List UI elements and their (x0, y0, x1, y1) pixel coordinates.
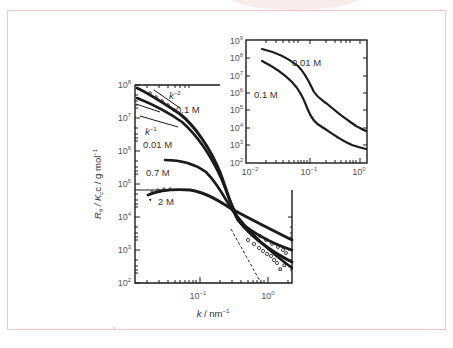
series-0.7M (165, 160, 292, 268)
svg-text:10−1: 10−1 (190, 290, 208, 301)
svg-text:105: 105 (118, 178, 132, 189)
svg-text:104: 104 (230, 122, 244, 133)
svg-text:0.7 M: 0.7 M (146, 167, 170, 178)
main-x-axis-title: k / nm−1 (197, 308, 230, 319)
main-y-axis-title: Rθ / Kcc / g mol−1 (92, 148, 104, 219)
svg-text:k−1: k−1 (145, 126, 157, 137)
svg-text:10−1: 10−1 (301, 166, 319, 177)
svg-text:106: 106 (230, 87, 244, 98)
svg-text:109: 109 (230, 35, 244, 46)
figure-canvas: 108 107 106 105 104 103 102 10−1 100 k /… (0, 0, 453, 348)
inset-y-tick-labels: 109 108 107 106 105 104 103 102 (230, 35, 244, 168)
svg-text:106: 106 (118, 145, 132, 156)
svg-text:108: 108 (230, 52, 244, 63)
svg-text:0.1 M: 0.1 M (176, 104, 200, 115)
svg-text:0.01 M: 0.01 M (143, 139, 172, 150)
svg-text:0.1 M: 0.1 M (254, 89, 278, 100)
inset-plot: 109 108 107 106 105 104 103 102 10−2 10−… (230, 35, 367, 177)
svg-text:0.01 M: 0.01 M (292, 57, 321, 68)
svg-text:10−2: 10−2 (242, 166, 260, 177)
svg-text:103: 103 (118, 244, 132, 255)
svg-text:k−2: k−2 (169, 90, 181, 101)
svg-text:2 M: 2 M (158, 196, 174, 207)
inset-x-tick-labels: 10−2 10−1 100 (242, 166, 367, 177)
svg-text:104: 104 (118, 211, 132, 222)
main-y-tick-labels: 108 107 106 105 104 103 102 (118, 79, 132, 288)
svg-text:107: 107 (230, 70, 244, 81)
svg-text:107: 107 (118, 112, 132, 123)
svg-text:108: 108 (118, 79, 132, 90)
svg-text:100: 100 (352, 166, 366, 177)
main-x-tick-labels: 10−1 100 (190, 290, 276, 301)
svg-text:100: 100 (261, 290, 275, 301)
svg-text:105: 105 (230, 104, 244, 115)
2M-marker-icon (149, 199, 152, 202)
svg-text:102: 102 (118, 277, 132, 288)
svg-text:103: 103 (230, 139, 244, 150)
